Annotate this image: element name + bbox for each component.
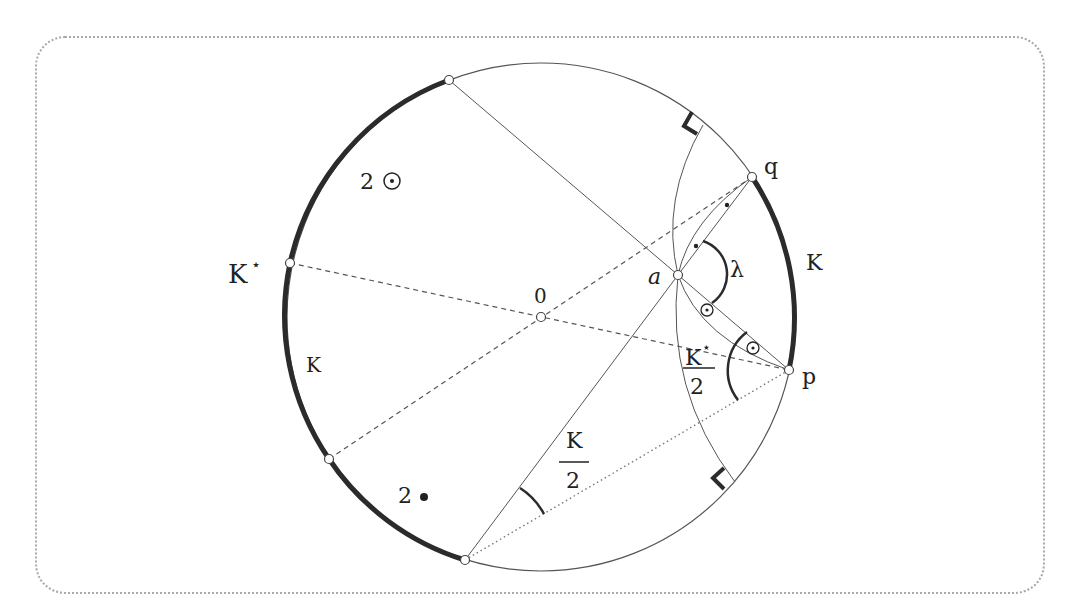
label-q: q [764,154,778,179]
label-k-left: K [306,353,322,377]
dotted-bottom-p [465,370,789,560]
point-kstar [286,259,295,268]
arc-k-right [752,177,794,370]
right-angle-mark-bottom [713,468,724,489]
point-q [748,173,757,182]
orth-arc-lower [676,177,752,482]
angle-k-arc [520,488,544,514]
label-two-bullet: 2 [398,483,412,508]
label-two-odot: 2 [360,169,374,194]
odot-symbol-label [384,173,400,189]
tick-dot [694,244,698,248]
label-a: a [648,264,661,289]
odot-marker [747,342,759,354]
arc-2bullet [329,459,465,560]
label-zero: 0 [534,284,547,308]
tick-dot [725,203,729,207]
frac-kstar-numerator: K [685,345,702,370]
circle-diagram: 2 K ⋆ K 0 a q p λ K 2 K 2 K ⋆ 2 [0,0,1071,613]
bullet-symbol [420,493,428,501]
odot-marker [701,304,713,316]
line-top-a [449,80,678,275]
label-kstar: K [228,259,248,289]
point-center [537,313,546,322]
point-p [785,366,794,375]
label-k-right: K [806,250,823,275]
frac-k-numerator: K [566,428,583,453]
point-a [674,271,683,280]
frac-k-denominator: 2 [566,468,580,493]
label-p: p [802,364,816,389]
angle-lambda-arc [703,241,727,303]
label-lambda: λ [730,257,744,282]
point-top [445,76,454,85]
frac-kstar-sup: ⋆ [702,339,711,355]
frac-kstar-denominator: 2 [690,374,704,399]
line-bottom-a [465,275,678,560]
point-bottom [461,556,470,565]
label-kstar-sup: ⋆ [251,255,261,274]
point-lowleft [325,455,334,464]
